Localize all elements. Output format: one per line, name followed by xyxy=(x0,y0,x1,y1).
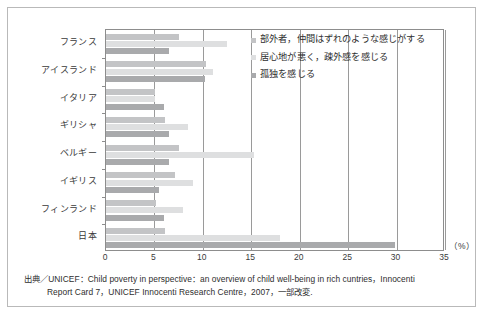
y-axis-label: 日本 xyxy=(78,223,97,251)
y-axis-tick xyxy=(102,197,106,198)
y-axis-tick xyxy=(102,224,106,225)
bar xyxy=(106,117,165,123)
x-axis-tick-label: 15 xyxy=(246,252,255,262)
bar xyxy=(106,172,175,178)
legend-swatch-icon xyxy=(251,55,256,60)
bar xyxy=(106,180,193,186)
y-axis-tick xyxy=(102,113,106,114)
plot-wrapper: フランスアイスランドイタリアギリシャベルギーイギリスフィンランド日本 05101… xyxy=(8,8,475,306)
bar-group xyxy=(106,86,443,114)
y-axis-labels: フランスアイスランドイタリアギリシャベルギーイギリスフィンランド日本 xyxy=(8,29,101,251)
bar xyxy=(106,124,188,130)
legend-swatch-icon xyxy=(251,38,256,43)
bar xyxy=(106,48,169,54)
y-axis-tick xyxy=(102,58,106,59)
legend: 部外者，仲間はずれのような感じがする居心地が悪く，疎外感を感じる孤独を感じる xyxy=(251,34,451,87)
bar xyxy=(106,96,155,102)
y-axis-label: フィンランド xyxy=(41,196,97,224)
y-axis-label: ギリシャ xyxy=(60,112,97,140)
x-axis-tick-label: 35 xyxy=(439,252,448,262)
legend-label: 孤独を感じる xyxy=(260,69,315,80)
x-axis-tick-label: 30 xyxy=(391,252,400,262)
footnote: 出典／UNICEF：Child poverty in perspective：a… xyxy=(8,273,475,298)
bar xyxy=(106,76,205,82)
bar xyxy=(106,41,227,47)
y-axis-tick xyxy=(102,169,106,170)
bar xyxy=(106,104,164,110)
legend-label: 部外者，仲間はずれのような感じがする xyxy=(260,34,425,45)
y-axis-tick xyxy=(102,86,106,87)
bar xyxy=(106,228,165,234)
bar xyxy=(106,215,164,221)
bar xyxy=(106,61,206,67)
y-axis-label: イギリス xyxy=(60,168,97,196)
bar-group xyxy=(106,141,443,169)
bar xyxy=(106,235,280,241)
bar-group xyxy=(106,113,443,141)
bar xyxy=(106,200,156,206)
bar xyxy=(106,242,395,248)
bar-group xyxy=(106,224,443,252)
footnote-line-2: Report Card 7，UNICEF Innocenti Research … xyxy=(24,286,461,299)
y-axis-label: イタリア xyxy=(60,85,97,113)
unit-label: （%） xyxy=(449,239,475,251)
bar xyxy=(106,89,155,95)
x-axis-tick-label: 5 xyxy=(151,252,156,262)
x-axis-ticks: 05101520253035 xyxy=(105,252,444,266)
bar xyxy=(106,207,183,213)
x-axis-tick-label: 10 xyxy=(197,252,206,262)
legend-item[interactable]: 居心地が悪く，疎外感を感じる xyxy=(251,52,451,63)
bar xyxy=(106,145,179,151)
footnote-line-1: 出典／UNICEF：Child poverty in perspective：a… xyxy=(24,273,461,286)
y-axis-label: アイスランド xyxy=(41,57,97,85)
bar xyxy=(106,34,179,40)
bar-group xyxy=(106,169,443,197)
x-axis-tick-label: 20 xyxy=(294,252,303,262)
bar xyxy=(106,152,254,158)
figure-container: フランスアイスランドイタリアギリシャベルギーイギリスフィンランド日本 05101… xyxy=(7,7,476,307)
bar xyxy=(106,187,159,193)
bar xyxy=(106,159,169,165)
x-axis-tick-label: 0 xyxy=(103,252,108,262)
bar xyxy=(106,69,213,75)
legend-item[interactable]: 部外者，仲間はずれのような感じがする xyxy=(251,34,451,45)
legend-item[interactable]: 孤独を感じる xyxy=(251,69,451,80)
x-axis-tick-label: 25 xyxy=(342,252,351,262)
legend-label: 居心地が悪く，疎外感を感じる xyxy=(260,52,388,63)
bar-group xyxy=(106,197,443,225)
y-axis-label: ベルギー xyxy=(60,140,97,168)
y-axis-tick xyxy=(102,141,106,142)
y-axis-label: フランス xyxy=(60,29,97,57)
bar xyxy=(106,131,169,137)
legend-swatch-icon xyxy=(251,73,256,78)
